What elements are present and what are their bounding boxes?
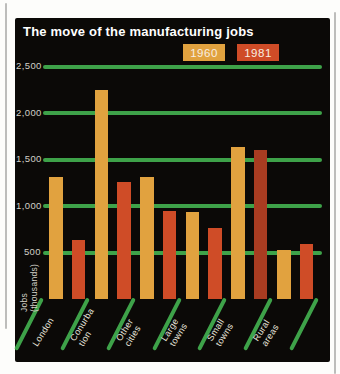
y-tick-1500: 1,500	[16, 153, 41, 164]
bar-rural-areas-1981	[300, 244, 314, 299]
category-label-large-towns: Largetowns	[159, 316, 189, 348]
page-edge-line-left	[5, 3, 7, 329]
gridline-1500	[43, 158, 322, 162]
plot-area: 2,5002,0001,5001,000500LondonConurbation…	[15, 18, 330, 362]
category-label-conurbation: Conurbation	[68, 306, 104, 348]
y-tick-2500: 2,500	[16, 60, 41, 71]
gridline-1000	[43, 204, 322, 208]
category-label-small-towns: Smalltowns	[205, 316, 235, 348]
bar-conurbation-1960	[95, 90, 109, 299]
bar-rural-areas-1960	[277, 250, 291, 299]
x-axis-slash	[289, 297, 318, 350]
gridline-2500	[43, 65, 322, 69]
bar-other-cities-1960	[140, 177, 154, 299]
bar-london-1981	[72, 240, 86, 299]
y-axis-title: Jobs (thousands)	[19, 248, 43, 312]
bar-london-1960	[49, 177, 63, 299]
bar-large-towns-1981	[208, 228, 222, 299]
category-label-london: London	[31, 316, 56, 348]
category-label-line: London	[31, 316, 56, 348]
page-edge-line-right	[334, 12, 336, 374]
bar-other-cities-1981	[163, 211, 177, 299]
y-axis-title-line1: Jobs	[19, 248, 29, 312]
bar-conurbation-1981	[117, 182, 131, 299]
y-tick-1000: 1,000	[16, 200, 41, 211]
scanned-page: The move of the manufacturing jobs 19601…	[0, 0, 340, 374]
bar-small-towns-1960	[231, 147, 245, 299]
category-label-other-cities: Othercities	[114, 317, 144, 348]
bar-large-towns-1960	[186, 212, 200, 299]
chart-panel: The move of the manufacturing jobs 19601…	[15, 18, 330, 362]
bar-small-towns-1981	[254, 150, 268, 299]
gridline-2000	[43, 111, 322, 115]
y-axis-title-line2: (thousands)	[29, 248, 39, 312]
y-tick-2000: 2,000	[16, 107, 41, 118]
